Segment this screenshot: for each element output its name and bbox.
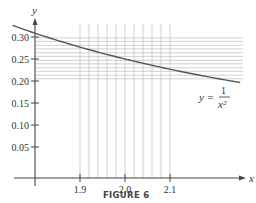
x-axis-arrow-icon xyxy=(239,176,246,181)
y-tick-label: 0.05 xyxy=(12,142,30,153)
y-tick-label: 0.25 xyxy=(12,54,30,65)
y-tick-label: 0.30 xyxy=(12,32,30,43)
y-axis-label: y xyxy=(31,4,37,16)
curve-one-over-x-squared xyxy=(13,25,241,82)
x-tick-label: 1.9 xyxy=(74,184,87,195)
figure-6-chart: 0.050.100.150.200.250.30 1.92.02.1 y x y… xyxy=(0,0,256,203)
figure-caption: FIGURE 6 xyxy=(103,190,149,200)
curve-label-lhs: y = xyxy=(198,91,214,103)
curve-label: y = 1 x² xyxy=(198,85,230,110)
y-tick-label: 0.20 xyxy=(12,76,30,87)
curve-label-numerator: 1 xyxy=(221,85,226,96)
x-axis-label: x xyxy=(248,172,254,184)
curve-label-denominator: x² xyxy=(217,98,227,110)
y-tick-label: 0.10 xyxy=(12,120,30,131)
vertical-gridlines xyxy=(80,24,170,178)
x-tick-label: 2.1 xyxy=(164,184,177,195)
horizontal-gridlines xyxy=(35,38,243,79)
y-tick-label: 0.15 xyxy=(12,98,30,109)
y-axis-arrow-icon xyxy=(33,18,38,25)
